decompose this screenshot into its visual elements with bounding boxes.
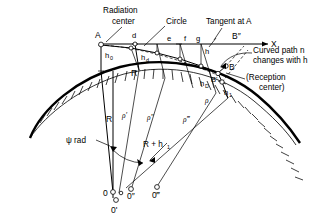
r-plus-h1-label: R + h 1 xyxy=(143,140,170,150)
height-segment-h0 xyxy=(98,45,104,71)
height-label-h1-right: h 1 xyxy=(224,88,232,98)
point-label-g: g xyxy=(196,34,200,43)
node-b-prime xyxy=(220,80,224,84)
hd-subscript: d xyxy=(146,57,149,63)
node-e-path xyxy=(155,51,159,55)
point-label-e: e xyxy=(167,34,171,43)
origin-label-o-tprime: 0‴ xyxy=(152,190,160,200)
point-label-b-dprime: B″ xyxy=(232,31,241,41)
point-label-b-prime: B' xyxy=(211,75,218,84)
circle-label: Circle xyxy=(166,17,187,26)
h1-subscript: 1 xyxy=(229,92,232,98)
radiation-center-label-line2: center xyxy=(112,17,135,26)
point-label-h: h xyxy=(205,47,209,56)
curved-ray-path xyxy=(101,45,220,76)
point-label-b: B xyxy=(229,62,235,72)
r-plus-h1-subscript: 1 xyxy=(167,144,170,150)
rho-label: ρ xyxy=(204,96,209,105)
radius-label-r-psi: R xyxy=(131,68,137,78)
h1-base: h xyxy=(224,88,228,97)
node-g-path xyxy=(199,64,203,68)
rho-prime-label: ρ′ xyxy=(121,111,128,120)
r-plus-h1-base: R + h xyxy=(143,140,163,149)
height-label-hd: h d xyxy=(141,53,149,63)
tangent-at-a-label: Tangent at A xyxy=(206,17,252,26)
curved-path-label-line1: Curved path n xyxy=(253,46,305,55)
node-d-path xyxy=(129,46,133,50)
reception-center-label-line1: (Reception xyxy=(246,73,286,82)
h0-subscript: 0 xyxy=(110,55,113,61)
point-label-a: A xyxy=(95,30,101,40)
rho-tprime-label: ρ‴ xyxy=(182,115,191,124)
height-label-hD-right: h D xyxy=(200,79,209,89)
curved-path-label-line2: changes with h xyxy=(253,56,308,65)
hD-subscript: D xyxy=(205,83,209,89)
radius-label-r: R xyxy=(106,114,112,124)
psi-rad-label: ψ rad xyxy=(66,136,86,145)
point-label-d: d xyxy=(132,31,136,40)
propagation-geometry-figure: Radiation center Circle Tangent at A Cur… xyxy=(0,0,318,222)
h0-base: h xyxy=(105,51,109,60)
height-label-h0: h 0 xyxy=(105,51,113,61)
node-f-path xyxy=(178,57,182,61)
figure-canvas: Radiation center Circle Tangent at A Cur… xyxy=(0,0,318,222)
node-a xyxy=(99,42,104,47)
origin-label-o-dprime: 0″ xyxy=(127,191,135,201)
rho-dprime-label: ρ″ xyxy=(146,113,155,122)
hd-base: h xyxy=(141,53,145,62)
x-axis-label: X xyxy=(271,39,277,49)
node-d xyxy=(133,42,137,46)
point-label-f: f xyxy=(184,34,187,43)
origin-node-o-prime xyxy=(114,198,119,203)
origin-node-o-tprime xyxy=(155,185,160,190)
psi-angle-arc xyxy=(96,140,143,166)
reception-center-label-line2: center) xyxy=(259,83,285,92)
psi-arrow-left xyxy=(110,146,117,152)
origin-node-extra xyxy=(119,191,123,195)
origin-node-o xyxy=(111,190,116,195)
hD-base: h xyxy=(200,79,204,88)
radiation-center-label-line1: Radiation xyxy=(103,6,138,15)
origin-label-o-prime: 0' xyxy=(111,205,118,215)
radial-lines xyxy=(101,70,228,193)
origin-label-o: 0 xyxy=(103,188,108,198)
